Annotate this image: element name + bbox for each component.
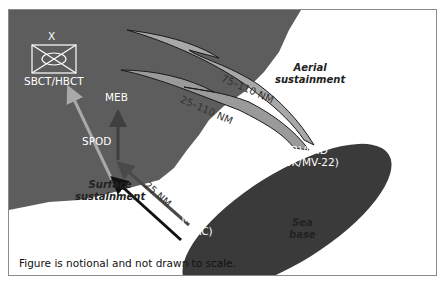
unit-label: SBCT/HBCT [24, 75, 84, 87]
connector-line2: (LCAC) [177, 225, 213, 237]
spod-label: SPOD [82, 135, 111, 147]
diagram-canvas [9, 10, 436, 275]
aerial-title-line2: sustainment [275, 74, 345, 86]
ship-line1: LHA(R)/LHD [255, 144, 339, 156]
surface-title-line2: sustainment [75, 191, 145, 203]
aerial-title-line1: Aerial [275, 62, 345, 74]
sea-base-line1: Sea [289, 217, 316, 229]
connector-line1: MLPs [177, 213, 213, 225]
aerial-sustainment-title: Aerial sustainment [275, 62, 345, 86]
echelon-label: X [48, 30, 55, 42]
meb-label: MEB [105, 91, 128, 103]
sea-base-line2: base [289, 229, 316, 241]
connector-label: MLPs (LCAC) [177, 213, 213, 237]
surface-sustainment-title: Surface sustainment [75, 179, 145, 203]
sea-base-title: Sea base [289, 217, 316, 241]
figure-frame: X SBCT/HBCT MEB SPOD Aerial sustainment … [8, 9, 437, 276]
surface-title-line1: Surface [75, 179, 145, 191]
ship-label: LHA(R)/LHD (CH-53K/MV-22) [255, 144, 339, 168]
figure-caption: Figure is notional and not drawn to scal… [19, 257, 236, 269]
ship-line2: (CH-53K/MV-22) [255, 156, 339, 168]
